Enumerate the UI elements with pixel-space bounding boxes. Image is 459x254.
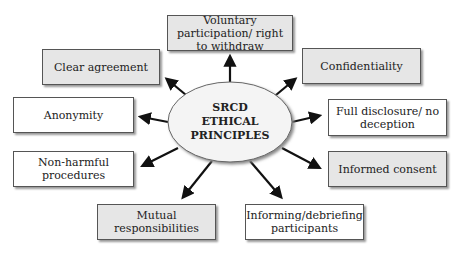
center-line-3: PRINCIPLES <box>191 129 270 143</box>
center-title: SRCD ETHICAL PRINCIPLES <box>168 82 292 162</box>
srcd-ethical-principles-diagram: SRCD ETHICAL PRINCIPLES Voluntary partic… <box>0 0 459 254</box>
center-line-1: SRCD <box>191 101 270 115</box>
node-mutual-responsibilities: Mutual responsibilities <box>97 204 216 240</box>
center-line-2: ETHICAL <box>191 115 270 129</box>
node-anonymity: Anonymity <box>13 97 134 133</box>
node-informed-consent: Informed consent <box>328 151 447 187</box>
node-confidentiality: Confidentiality <box>302 48 421 84</box>
node-non-harmful-procedures: Non-harmful procedures <box>13 151 134 187</box>
node-voluntary-participation: Voluntary participation/ right to withdr… <box>167 15 293 51</box>
node-clear-agreement: Clear agreement <box>42 49 160 85</box>
node-full-disclosure: Full disclosure/ no deception <box>328 99 447 136</box>
node-informing-debriefing: Informing/debriefing participants <box>245 204 364 240</box>
